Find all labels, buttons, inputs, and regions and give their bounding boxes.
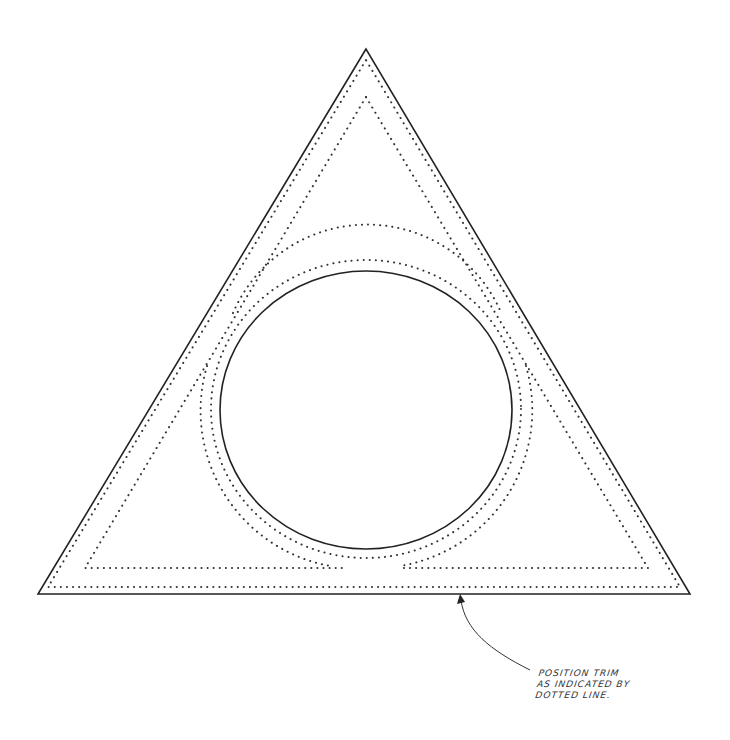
center-circle-opening: [220, 271, 512, 549]
note-line-1: POSITION TRIM: [538, 668, 633, 679]
arrowhead-icon: [457, 594, 465, 604]
note-line-2: AS INDICATED BY: [536, 679, 631, 690]
pattern-diagram: [0, 0, 730, 740]
leader-arrow-line: [461, 600, 530, 670]
trim-instruction-note: POSITION TRIM AS INDICATED BY DOTTED LIN…: [535, 668, 633, 701]
note-line-3: DOTTED LINE.: [535, 690, 630, 701]
